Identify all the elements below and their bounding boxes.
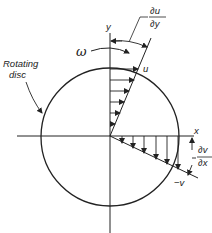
rotating-disc-diagram: Rotating disc ω y x u −v ∂u ∂y ∂v ∂x: [0, 0, 212, 233]
rotating-disc-label-line1: Rotating: [3, 58, 39, 69]
y-axis-label: y: [105, 21, 112, 32]
dv-dx-fraction: ∂v ∂x: [197, 144, 212, 168]
v-profile-line: [110, 136, 198, 178]
du-dy-fraction: ∂u ∂y: [149, 5, 166, 29]
u-velocity-arrows: [110, 69, 138, 124]
rotating-disc-leader: [26, 82, 42, 113]
x-axis-label: x: [193, 125, 200, 136]
svg-text:∂v: ∂v: [198, 144, 209, 155]
u-profile-line: [110, 38, 151, 136]
omega-label: ω: [76, 44, 87, 59]
minus-v-label: −v: [174, 177, 186, 188]
svg-text:∂u: ∂u: [150, 5, 161, 16]
du-dy-leader: [129, 17, 148, 42]
u-label: u: [143, 63, 149, 74]
svg-text:∂y: ∂y: [150, 18, 161, 29]
svg-text:∂x: ∂x: [198, 157, 209, 168]
dv-dx-angle-marker: [188, 138, 196, 175]
rotating-disc-label-line2: disc: [9, 69, 26, 80]
